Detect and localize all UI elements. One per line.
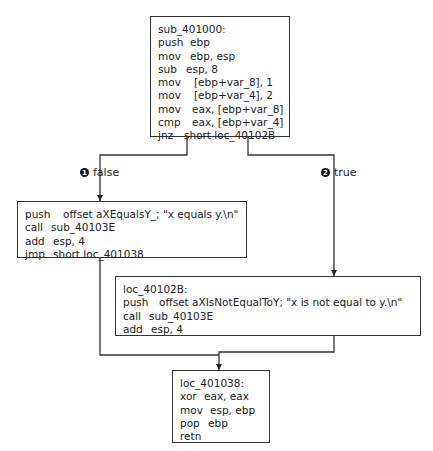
- true-edge: [248, 137, 334, 276]
- asm-line: loc_401038:: [180, 377, 269, 390]
- asm-line: callsub_40103E: [25, 221, 246, 234]
- asm-line: pushoffset aXEqualsY_; "x equals y.\n": [25, 208, 246, 221]
- asm-line: addesp, 4: [123, 323, 420, 336]
- asm-line: pushebp: [158, 36, 289, 49]
- entry-block: sub_401000: pushebp movebp, esp subesp, …: [150, 16, 290, 137]
- asm-line: moveax, [ebp+var_8]: [158, 103, 289, 116]
- false-edge-label: 1 false: [80, 166, 119, 179]
- number-marker-icon: 1: [80, 168, 89, 177]
- false-block: pushoffset aXEqualsY_; "x equals y.\n" c…: [17, 201, 247, 258]
- asm-line: sub_401000:: [158, 23, 289, 36]
- asm-line: mov[ebp+var_8], 1: [158, 76, 289, 89]
- asm-line: addesp, 4: [25, 235, 246, 248]
- number-marker-icon: 2: [321, 168, 330, 177]
- true-edge-label: 2 true: [321, 166, 357, 179]
- asm-line: mov[ebp+var_4], 2: [158, 89, 289, 102]
- asm-line: xoreax, eax: [180, 390, 269, 403]
- exit-block: loc_401038: xoreax, eax movesp, ebp pope…: [172, 370, 270, 443]
- asm-line: pushoffset aXIsNotEqualToY; "x is not eq…: [123, 296, 420, 309]
- asm-line: cmpeax, [ebp+var_4]: [158, 116, 289, 129]
- asm-line: jnzshort loc_40102B: [158, 129, 289, 142]
- true-block: loc_40102B: pushoffset aXIsNotEqualToY; …: [115, 276, 421, 336]
- asm-line: loc_40102B:: [123, 283, 420, 296]
- asm-line: movesp, ebp: [180, 404, 269, 417]
- asm-line: callsub_40103E: [123, 310, 420, 323]
- asm-line: movebp, esp: [158, 50, 289, 63]
- asm-line: jmpshort loc_401038: [25, 248, 246, 261]
- asm-line: popebp: [180, 417, 269, 430]
- true-to-exit-edge: [219, 335, 334, 370]
- asm-line: subesp, 8: [158, 63, 289, 76]
- asm-line: retn: [180, 430, 269, 443]
